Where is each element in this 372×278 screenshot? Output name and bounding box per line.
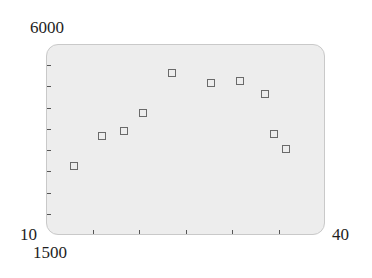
y-axis-tick (47, 65, 51, 66)
y-axis-tick (47, 214, 51, 215)
x-axis-tick (186, 230, 187, 234)
y-axis-tick (47, 108, 51, 109)
plot-area (46, 44, 325, 235)
y-axis-tick (47, 150, 51, 151)
x-axis-tick (93, 230, 94, 234)
x-axis-tick (139, 230, 140, 234)
y-axis-tick (47, 171, 51, 172)
data-point-marker (70, 162, 78, 170)
data-point-marker (98, 132, 106, 140)
y-axis-max-label: 6000 (30, 19, 64, 36)
data-point-marker (282, 145, 290, 153)
y-axis-tick (47, 86, 51, 87)
x-axis-tick (232, 230, 233, 234)
y-axis-tick (47, 129, 51, 130)
data-point-marker (207, 79, 215, 87)
x-axis-tick (279, 230, 280, 234)
data-point-marker (120, 127, 128, 135)
y-axis-tick (47, 193, 51, 194)
data-point-marker (168, 69, 176, 77)
data-point-marker (236, 77, 244, 85)
data-point-marker (270, 130, 278, 138)
y-axis-min-label: 1500 (33, 244, 67, 261)
data-point-marker (261, 90, 269, 98)
x-axis-min-label: 10 (20, 226, 37, 243)
x-axis-max-label: 40 (332, 226, 349, 243)
data-point-marker (139, 109, 147, 117)
